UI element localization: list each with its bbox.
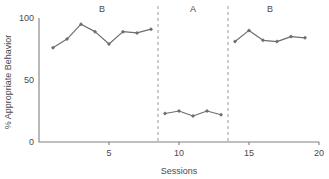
data-point-marker: [289, 35, 293, 39]
data-point-marker: [149, 27, 153, 31]
axis-lines: [39, 18, 319, 142]
phase-dividers-group: [158, 6, 228, 142]
y-tick-label: 50: [24, 75, 34, 85]
y-axis-title: % Appropriate Behavior: [3, 35, 13, 130]
phase-label: A: [190, 4, 196, 14]
x-tick-label: 5: [106, 148, 111, 158]
data-point-marker: [303, 36, 307, 40]
data-series-group: [51, 22, 307, 118]
axes-group: [39, 18, 319, 142]
data-point-marker: [219, 113, 223, 117]
x-axis-tick-labels: 5101520: [106, 142, 324, 158]
x-tick-label: 15: [244, 148, 254, 158]
y-tick-label: 0: [29, 137, 34, 147]
data-point-marker: [135, 31, 139, 35]
chart-container: 050100 5101520 BAB Sessions % Appropriat…: [0, 0, 329, 179]
data-point-marker: [275, 40, 279, 44]
data-point-marker: [163, 111, 167, 115]
data-point-marker: [177, 109, 181, 113]
y-axis-tick-labels: 050100: [19, 13, 34, 147]
series-line-segment: [53, 24, 151, 48]
x-tick-label: 10: [174, 148, 184, 158]
chart-plot: 050100 5101520 BAB Sessions % Appropriat…: [0, 0, 329, 179]
x-tick-label: 20: [314, 148, 324, 158]
y-tick-label: 100: [19, 13, 34, 23]
phase-label: B: [99, 4, 105, 14]
phase-labels-group: BAB: [99, 4, 273, 14]
x-axis-title: Sessions: [161, 166, 198, 176]
phase-label: B: [267, 4, 273, 14]
data-point-marker: [205, 109, 209, 113]
series-line-segment: [235, 30, 305, 41]
data-point-marker: [191, 114, 195, 118]
